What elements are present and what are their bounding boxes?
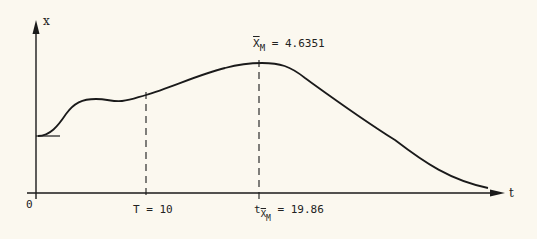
peak-subscript: M	[260, 43, 265, 53]
peak-value-label: XM = 4.6351	[253, 38, 325, 49]
peak-value: = 4.6351	[265, 37, 325, 50]
x-axis-arrow-icon	[490, 190, 505, 197]
peak-time-label: tXM = 19.86	[254, 204, 324, 215]
origin-label: 0	[26, 199, 33, 210]
tpeak-subscript-m: M	[266, 214, 271, 223]
tpeak-symbol: t	[254, 203, 261, 216]
response-curve	[38, 63, 488, 188]
tpeak-value: = 19.86	[271, 203, 324, 216]
T-label: T = 10	[133, 204, 173, 215]
y-axis-arrow-icon	[33, 20, 40, 34]
peak-symbol: X	[253, 37, 260, 50]
x-axis-label: t	[509, 187, 514, 199]
y-axis-label: x	[43, 15, 50, 27]
